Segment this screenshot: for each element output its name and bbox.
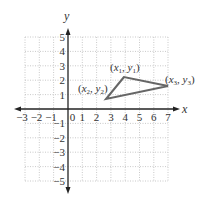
y-tick: 2	[60, 74, 66, 86]
x-axis-label: x	[181, 102, 188, 116]
x-tick: 5	[137, 111, 143, 123]
y-tick: 1	[60, 89, 66, 101]
coordinate-plane: x y −3 −2 −1 0 1 2 3 4 5 6 7 5 4 3 2 1 −…	[0, 0, 201, 207]
x-axis-right-arrow-icon	[173, 107, 180, 112]
y-tick: 4	[60, 45, 66, 57]
x-tick: 2	[94, 111, 100, 123]
y-axis-label: y	[63, 9, 70, 23]
y-tick: −2	[53, 132, 65, 144]
x-tick: 6	[151, 111, 157, 123]
x-tick: 0	[70, 111, 76, 123]
y-axis-down-arrow-icon	[66, 187, 71, 194]
x-tick: −2	[31, 111, 43, 123]
x-tick: 4	[122, 111, 128, 123]
y-axis-up-arrow-icon	[66, 28, 71, 35]
vertex-label-2: (x2, y2)	[78, 82, 108, 96]
y-tick: 3	[60, 60, 66, 72]
y-tick: −5	[53, 175, 65, 187]
y-tick: −3	[53, 146, 65, 158]
y-tick: 5	[60, 31, 66, 43]
x-tick-labels: −3 −2 −1 0 1 2 3 4 5 6 7	[16, 111, 171, 123]
y-tick: −4	[53, 161, 65, 173]
vertex-label-3: (x3, y3)	[165, 73, 195, 87]
y-tick: −1	[53, 117, 65, 129]
x-tick: −3	[16, 111, 28, 123]
x-tick: 7	[165, 111, 171, 123]
x-tick: 1	[80, 111, 86, 123]
vertex-label-1: (x1, y1)	[110, 61, 140, 75]
x-tick: 3	[108, 111, 114, 123]
vertex-labels: (x1, y1) (x2, y2) (x3, y3)	[78, 61, 195, 96]
